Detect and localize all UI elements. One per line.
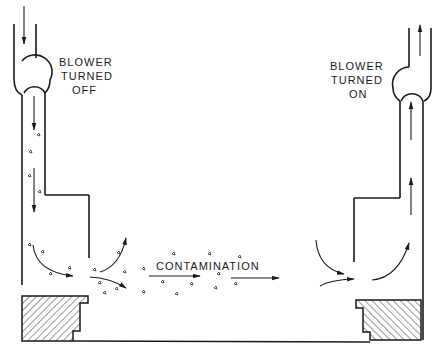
label-line: ON xyxy=(349,88,368,100)
right-hatched-block xyxy=(356,300,421,340)
contamination-label: CONTAMINATION xyxy=(156,260,260,272)
curved-arrow-icon xyxy=(372,243,409,280)
curved-arrow-icon xyxy=(100,238,126,272)
right-blower-label: BLOWER TURNED ON xyxy=(330,60,384,100)
left-hatched-block xyxy=(22,296,88,341)
label-line: OFF xyxy=(72,84,97,96)
label-line: TURNED xyxy=(331,74,383,86)
curved-arrow-icon xyxy=(90,277,126,288)
label-line: BLOWER xyxy=(59,56,113,68)
label-line: TURNED xyxy=(61,70,113,82)
label-line: BLOWER xyxy=(330,60,384,72)
left-blower-label: BLOWER TURNED OFF xyxy=(59,56,113,96)
curved-arrow-icon xyxy=(316,240,344,274)
contamination-airflow-diagram: BLOWER TURNED OFF BLOWER TURNED ON CONTA… xyxy=(0,0,444,355)
curved-arrow-icon xyxy=(320,279,354,286)
floor-line xyxy=(73,341,370,342)
curved-arrow-icon xyxy=(33,245,73,276)
